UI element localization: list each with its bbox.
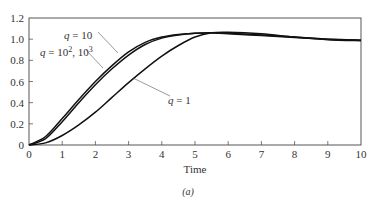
x-tick-label: 8: [292, 148, 298, 160]
y-tick-label: 0.2: [10, 118, 24, 130]
x-axis: 012345678910: [26, 141, 367, 160]
x-tick-label: 7: [259, 148, 265, 160]
y-axis: 00.20.40.60.81.01.2: [10, 12, 33, 151]
x-tick-label: 5: [192, 148, 198, 160]
q10-label: q = 10: [64, 29, 93, 41]
x-tick-label: 3: [126, 148, 132, 160]
x-tick-label: 1: [59, 148, 65, 160]
y-tick-label: 0.8: [10, 54, 24, 66]
step-response-chart: 00.20.40.60.81.01.2 012345678910 q = 10 …: [0, 0, 379, 208]
x-tick-label: 10: [356, 148, 368, 160]
y-tick-label: 1.0: [10, 33, 24, 45]
y-tick-label: 1.2: [10, 12, 24, 24]
x-axis-label: Time: [184, 163, 207, 175]
y-tick-label: 0.6: [10, 76, 24, 88]
q100-label: q = 102, 103: [40, 45, 93, 58]
x-tick-label: 0: [26, 148, 32, 160]
q1-label: q = 1: [168, 94, 191, 106]
y-tick-label: 0.4: [10, 97, 24, 109]
x-tick-label: 2: [93, 148, 99, 160]
x-tick-label: 6: [225, 148, 231, 160]
figure-caption: (a): [182, 186, 194, 198]
x-tick-label: 9: [325, 148, 331, 160]
x-tick-label: 4: [159, 148, 165, 160]
q1-leader-line: [133, 78, 170, 96]
q10-leader-line: [98, 32, 118, 53]
y-tick-label: 0: [19, 139, 25, 151]
